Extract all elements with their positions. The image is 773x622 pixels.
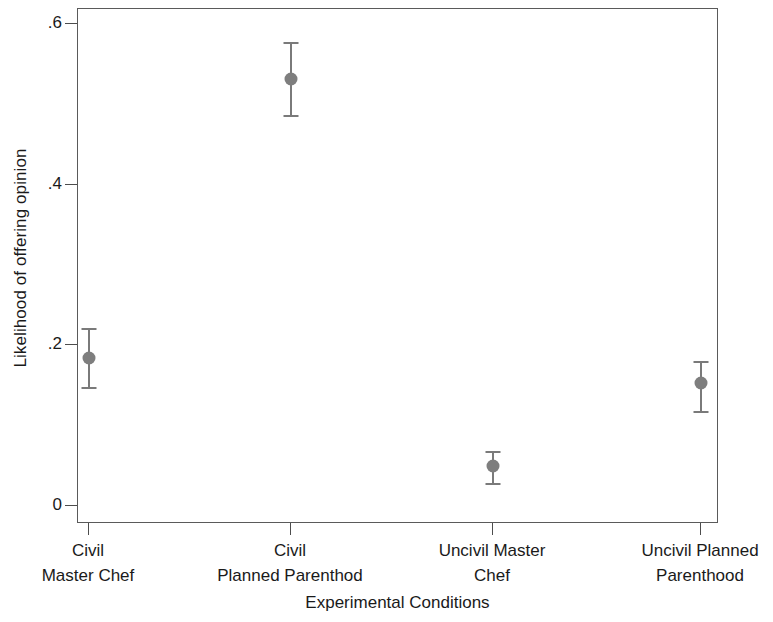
x-axis-tick-label-line: Uncivil Master xyxy=(387,538,597,563)
x-axis-tick-mark xyxy=(290,523,291,535)
error-bar-cap-upper xyxy=(284,42,299,44)
x-axis-tick-label-line: Chef xyxy=(387,563,597,588)
error-bar-cap-upper xyxy=(486,451,501,453)
x-axis-tick-label-line: Planned Parenthod xyxy=(185,563,395,588)
error-bar-cap-lower xyxy=(486,483,501,485)
x-axis-tick-label: CivilMaster Chef xyxy=(0,538,193,588)
y-axis-tick-label: .2 xyxy=(24,335,62,352)
error-bar-cap-lower xyxy=(694,411,709,413)
y-axis-tick-label: .6 xyxy=(24,14,62,31)
x-axis-tick-label: Uncivil MasterChef xyxy=(387,538,597,588)
error-bar-cap-upper xyxy=(82,328,97,330)
x-axis-tick-label: Uncivil PlannedParenthood xyxy=(595,538,773,588)
x-axis-tick-label: CivilPlanned Parenthod xyxy=(185,538,395,588)
y-axis-tick-mark xyxy=(65,505,77,506)
data-point-marker xyxy=(83,352,96,365)
y-axis-tick-labels: 0.2.4.6 xyxy=(20,0,62,622)
x-axis-tick-mark xyxy=(700,523,701,535)
error-bar-cap-lower xyxy=(284,115,299,117)
x-axis-tick-mark xyxy=(88,523,89,535)
y-axis-tick-mark xyxy=(65,23,77,24)
data-point-marker xyxy=(487,459,500,472)
x-axis-tick-label-line: Parenthood xyxy=(595,563,773,588)
plot-area xyxy=(77,8,718,523)
x-axis-title: Experimental Conditions xyxy=(77,592,718,614)
x-axis-tick-label-line: Civil xyxy=(0,538,193,563)
data-series-layer xyxy=(78,9,717,522)
error-bar-chart: Likelihood of offering opinion 0.2.4.6 C… xyxy=(0,0,773,622)
y-axis-tick-label: 0 xyxy=(24,496,62,513)
data-point-marker xyxy=(695,377,708,390)
y-axis-tick-label: .4 xyxy=(24,175,62,192)
y-axis-tick-mark xyxy=(65,344,77,345)
x-axis-tick-label-line: Civil xyxy=(185,538,395,563)
y-axis-tick-mark xyxy=(65,184,77,185)
x-axis-tick-label-line: Uncivil Planned xyxy=(595,538,773,563)
error-bar-cap-lower xyxy=(82,387,97,389)
error-bar-cap-upper xyxy=(694,361,709,363)
x-axis-tick-label-line: Master Chef xyxy=(0,563,193,588)
x-axis-tick-mark xyxy=(492,523,493,535)
data-point-marker xyxy=(285,72,298,85)
